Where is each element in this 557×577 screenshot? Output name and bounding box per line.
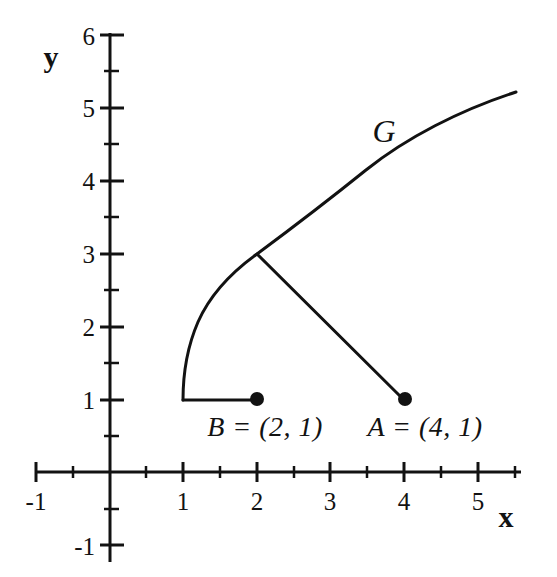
y-tick-label-2: 2: [83, 315, 96, 340]
y-tick-label-5: 5: [83, 96, 96, 121]
curve-g: [183, 92, 516, 400]
x-tick-label-1: 1: [177, 489, 190, 514]
y-tick-label-1: 1: [83, 388, 96, 413]
y-tick-label-neg1: -1: [74, 534, 95, 559]
point-label-a: A = (4, 1): [367, 413, 482, 441]
x-tick-label-3: 3: [324, 489, 337, 514]
x-tick-label-neg1: -1: [26, 489, 47, 514]
x-tick-label-4: 4: [398, 489, 411, 514]
y-tick-label-3: 3: [83, 242, 96, 267]
point-label-b: B = (2, 1): [207, 413, 323, 441]
y-axis-label: y: [44, 42, 59, 72]
segment-to-point-a: [257, 254, 404, 400]
point-marker-a: [398, 392, 412, 406]
point-marker-b: [250, 392, 264, 406]
x-tick-label-2: 2: [251, 489, 264, 514]
math-figure: 6 5 4 3 2 1 -1 -1 1 2 3 4 5 y x G B = (2…: [0, 0, 557, 577]
y-tick-label-4: 4: [83, 169, 96, 194]
curve-label-g: G: [372, 115, 395, 147]
x-axis-label: x: [499, 502, 514, 532]
x-tick-label-5: 5: [472, 489, 485, 514]
y-tick-label-6: 6: [83, 24, 96, 49]
